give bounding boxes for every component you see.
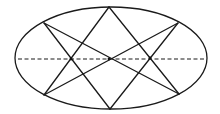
ellipse-star-diagram	[0, 0, 220, 114]
segment-bottom-to-upper-right	[110, 23, 178, 109]
segment-top-to-lower-left	[44, 7, 109, 95]
center-dot	[108, 58, 111, 61]
segment-top-to-lower-right	[109, 7, 179, 94]
star-segments	[44, 7, 179, 109]
right-crossing-dot	[149, 57, 152, 60]
segment-bottom-to-upper-left	[44, 23, 110, 109]
left-crossing-dot	[70, 58, 73, 61]
